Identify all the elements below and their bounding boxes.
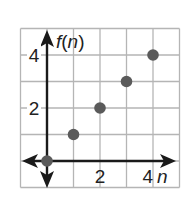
data-point	[147, 49, 159, 61]
data-point	[94, 102, 106, 114]
x-tick-label-2: 2	[95, 166, 106, 187]
y-tick-label-4: 4	[29, 45, 40, 66]
data-point	[68, 129, 80, 141]
data-point	[121, 76, 133, 88]
y-tick-label-2: 2	[29, 98, 40, 119]
data-point	[41, 155, 53, 167]
x-tick-label-4: 4	[142, 166, 153, 187]
x-axis-label: n	[157, 166, 168, 187]
y-axis-label: f(n)	[56, 31, 85, 52]
function-graph: 4 2 2 4 n f(n)	[0, 0, 186, 197]
